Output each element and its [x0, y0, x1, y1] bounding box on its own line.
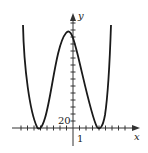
function-curve [23, 25, 111, 129]
chart: 1 x 20 y [0, 0, 148, 153]
x-axis: 1 x [12, 125, 140, 144]
y-axis-label: y [77, 10, 84, 21]
x-tick-label-1: 1 [77, 133, 83, 144]
y-axis: 20 y [58, 10, 84, 146]
x-axis-label: x [134, 131, 140, 142]
y-tick-label-20: 20 [58, 115, 71, 126]
y-axis-arrow-icon [70, 13, 76, 21]
